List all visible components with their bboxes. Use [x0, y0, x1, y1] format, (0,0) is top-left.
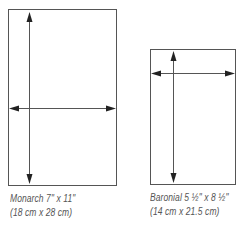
baronial-caption-size-in: Baronial 5 ½" x 8 ½"	[150, 191, 229, 205]
arrowhead-down-icon	[27, 174, 33, 184]
arrowhead-left-icon	[151, 71, 161, 77]
monarch-caption-size-cm: (18 cm x 28 cm)	[10, 206, 75, 220]
arrowhead-up-icon	[171, 51, 177, 61]
arrowhead-down-icon	[171, 173, 177, 183]
arrowhead-left-icon	[9, 106, 19, 112]
monarch-caption-size-in: Monarch 7" x 11"	[10, 192, 75, 206]
arrowhead-right-icon	[225, 71, 235, 77]
arrowhead-right-icon	[106, 106, 116, 112]
baronial-caption-size-cm: (14 cm x 21.5 cm)	[150, 205, 229, 219]
baronial-caption: Baronial 5 ½" x 8 ½" (14 cm x 21.5 cm)	[150, 191, 229, 219]
arrowhead-up-icon	[27, 12, 33, 22]
monarch-caption: Monarch 7" x 11" (18 cm x 28 cm)	[10, 192, 75, 220]
